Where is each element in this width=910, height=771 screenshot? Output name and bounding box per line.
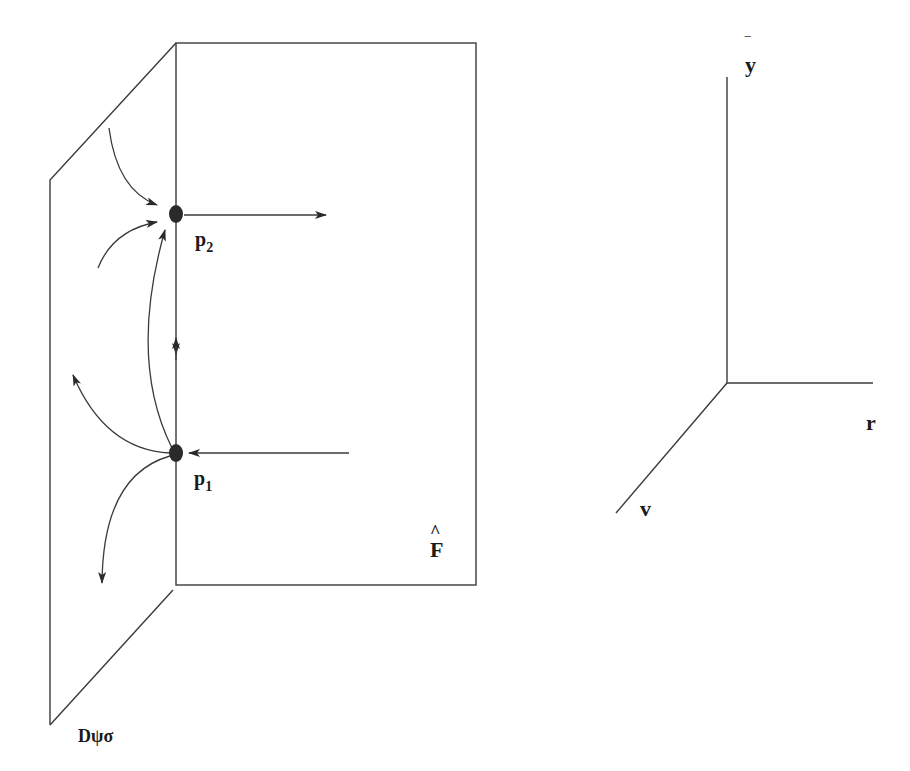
axis-v <box>616 383 727 513</box>
label-axis-r: r <box>866 410 876 435</box>
diagram-canvas: p2 p1 ^ F Dψσ ‾ y r v <box>0 0 910 771</box>
plane-D-psi-sigma-top-edge <box>50 43 176 725</box>
flow-curve-from-p1-up-left <box>73 375 170 453</box>
label-D-psi-sigma: Dψσ <box>78 726 113 746</box>
flow-curve-from-p1-down-left <box>102 456 170 583</box>
plane-D-psi-sigma-bottom-edge <box>50 590 173 725</box>
label-axis-y-bar-overline: ‾ <box>744 36 751 53</box>
fixed-point-p2 <box>169 205 183 223</box>
phase-diagram: p2 p1 ^ F Dψσ ‾ y r v <box>0 0 910 771</box>
coordinate-axes <box>616 77 873 513</box>
flow-curve-into-p2-top <box>109 128 157 205</box>
label-F-hat: F <box>430 537 443 562</box>
label-p2: p2 <box>195 228 213 255</box>
label-axis-v: v <box>640 496 651 521</box>
plane-F-hat <box>176 43 476 585</box>
flow-curve-into-p2-mid <box>98 222 157 268</box>
label-p1: p1 <box>194 467 212 494</box>
label-axis-y: y <box>745 52 756 77</box>
fixed-point-p1 <box>169 444 183 462</box>
flow-curve-p1-to-p2 <box>148 230 172 448</box>
